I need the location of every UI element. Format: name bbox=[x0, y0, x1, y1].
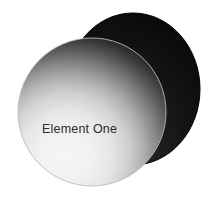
diagram-canvas: Element One bbox=[0, 0, 217, 207]
diagram-svg: Element One bbox=[0, 0, 217, 207]
front-circle-label: Element One bbox=[42, 122, 117, 136]
front-circle-texture bbox=[18, 38, 166, 186]
shape-front-circle[interactable]: Element One bbox=[18, 38, 166, 186]
